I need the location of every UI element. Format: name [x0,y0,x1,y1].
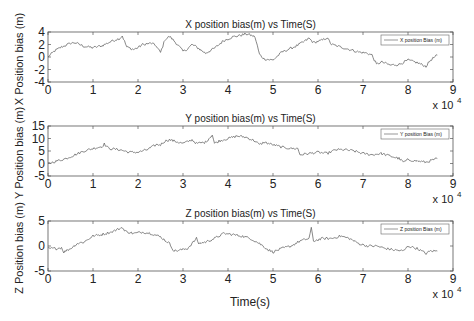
x-tick-label: 8 [405,272,412,286]
y-tick-label: 10 [32,132,46,146]
y-tick-label: 0 [38,239,45,253]
legend-entry: Z position Bias (m) [400,226,442,232]
x-tick-label: 6 [315,177,322,191]
y-tick-label: -2 [34,63,45,77]
figure: X position bias(m) vs Time(S)0123456789-… [0,0,474,321]
x-tick-label: 2 [135,272,142,286]
x-tick-label: 4 [225,272,232,286]
y-axis-label: X Position bias (m) [13,13,25,105]
x-axis-label: Time(s) [230,295,270,309]
x-tick-label: 4 [225,83,232,97]
y-tick-label: -5 [34,169,45,183]
x-tick-label: 3 [180,177,187,191]
x-tick-label: 4 [225,177,232,191]
x-multiplier-base: x 10 [433,193,454,205]
x-multiplier-exponent: 4 [457,285,462,294]
y-tick-label: 0 [38,50,45,64]
y-tick-label: 4 [38,25,45,39]
x-tick-label: 6 [315,83,322,97]
x-tick-label: 3 [180,83,187,97]
x-tick-label: 7 [360,272,367,286]
legend-entry: X position Bias (m) [400,37,442,43]
x-tick-label: 5 [270,83,277,97]
x-tick-label: 8 [405,83,412,97]
legend-entry: Y position Bias (m) [400,131,442,137]
legend: Z position Bias (m) [381,224,449,234]
y-tick-label: 0 [38,157,45,171]
x-tick-label: 9 [450,272,457,286]
x-tick-label: 8 [405,177,412,191]
x-tick-label: 6 [315,272,322,286]
x-tick-label: 2 [135,83,142,97]
x-tick-label: 9 [450,83,457,97]
x-tick-label: 2 [135,177,142,191]
x-multiplier-exponent: 4 [457,96,462,105]
chart-title: X position bias(m) vs Time(S) [185,19,316,30]
x-tick-label: 5 [270,272,277,286]
y-tick-label: -5 [34,264,45,278]
chart-title: Y position bias(m) vs Time(S) [185,113,315,124]
y-axis-label: Y Position bias (m) [13,107,25,199]
x-tick-label: 5 [270,177,277,191]
x-tick-label: 0 [45,272,52,286]
y-tick-label: 5 [38,214,45,228]
y-tick-label: 5 [38,144,45,158]
y-tick-label: 2 [38,38,45,52]
legend: X position Bias (m) [381,35,449,45]
x-tick-label: 7 [360,177,367,191]
x-tick-label: 1 [90,272,97,286]
x-tick-label: 3 [180,272,187,286]
x-tick-label: 7 [360,83,367,97]
y-axis-label: Z Position bias (m) [13,202,25,294]
x-tick-label: 1 [90,83,97,97]
x-tick-label: 9 [450,177,457,191]
x-tick-label: 1 [90,177,97,191]
x-multiplier-base: x 10 [433,288,454,300]
y-tick-label: 15 [32,119,46,133]
x-multiplier-exponent: 4 [457,190,462,199]
y-tick-label: -4 [34,75,45,89]
x-tick-label: 0 [45,83,52,97]
x-multiplier-base: x 10 [433,99,454,111]
chart-title: Z position bias(m) vs Time(S) [185,208,315,219]
legend: Y position Bias (m) [381,129,449,139]
x-tick-label: 0 [45,177,52,191]
